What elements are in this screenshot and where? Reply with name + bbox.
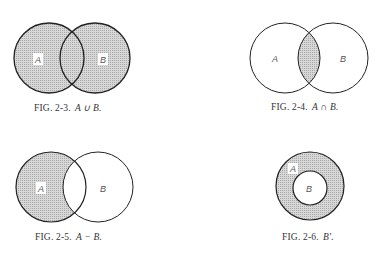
venn-diagrams-canvas: A B A B A B A B (0, 0, 375, 262)
set-a-label: A (271, 54, 278, 64)
caption-expression: B′. (323, 232, 334, 242)
figure-difference-diagram: A B (16, 152, 133, 222)
figure-intersection-diagram: A B (250, 23, 368, 93)
caption-fig-2-5: FIG. 2-5.A − B. (35, 232, 102, 242)
set-b-label: B (306, 184, 312, 194)
caption-fig-2-6: FIG. 2-6.B′. (282, 232, 334, 242)
set-b-label: B (100, 184, 106, 194)
caption-expression: A − B. (76, 232, 102, 242)
set-a-label: A (34, 55, 41, 65)
caption-fig-2-3: FIG. 2-3.A ∪ B. (34, 102, 102, 113)
figure-union-diagram: A B (14, 23, 130, 93)
figure-complement-diagram: A B (276, 152, 344, 220)
set-b-label: B (340, 54, 346, 64)
set-b-label: B (100, 55, 106, 65)
caption-figure-number: FIG. 2-4. (271, 102, 308, 112)
caption-expression: A ∪ B. (75, 103, 102, 113)
set-a-label: A (37, 184, 44, 194)
caption-figure-number: FIG. 2-3. (34, 103, 71, 113)
set-a-label: A (289, 164, 296, 174)
caption-figure-number: FIG. 2-6. (282, 232, 319, 242)
caption-expression: A ∩ B. (312, 102, 339, 112)
caption-figure-number: FIG. 2-5. (35, 232, 72, 242)
caption-fig-2-4: FIG. 2-4.A ∩ B. (271, 102, 339, 112)
